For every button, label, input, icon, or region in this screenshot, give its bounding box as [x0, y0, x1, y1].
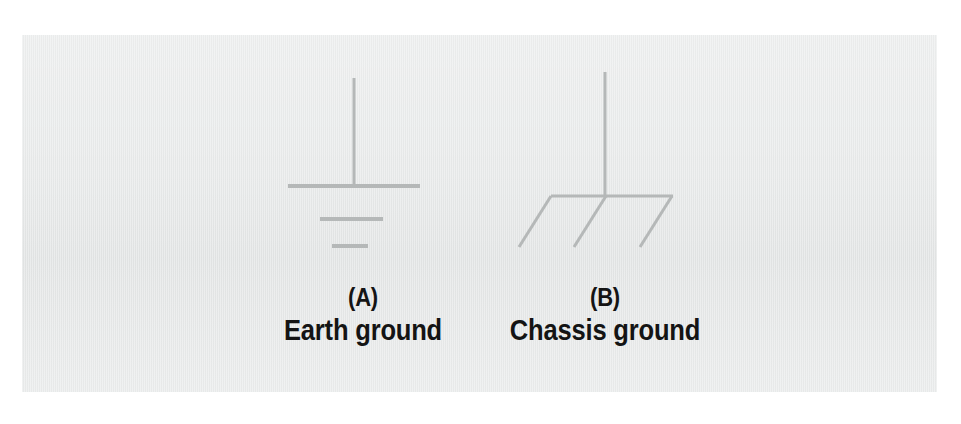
chassis-ground-hatch-3 [640, 196, 672, 247]
earth-ground-symbol [288, 78, 420, 246]
caption-a-name: Earth ground [231, 315, 495, 345]
caption-b-index: (B) [473, 284, 737, 310]
chassis-ground-symbol [519, 72, 673, 247]
ground-symbol-layer [0, 0, 961, 424]
chassis-ground-hatch-2 [574, 196, 606, 247]
chassis-ground-hatch-1 [519, 196, 551, 247]
caption-earth-ground: (A) Earth ground [231, 284, 495, 345]
caption-a-index: (A) [231, 284, 495, 310]
caption-chassis-ground: (B) Chassis ground [473, 284, 737, 345]
caption-b-name: Chassis ground [473, 315, 737, 345]
figure-root: (A) Earth ground (B) Chassis ground [0, 0, 961, 424]
